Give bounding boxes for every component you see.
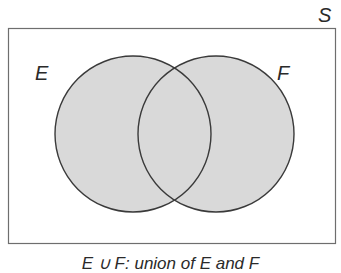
- set-f-fill: [138, 56, 294, 212]
- diagram-caption: E ∪ F: union of E and F: [0, 253, 341, 273]
- set-e-label: E: [35, 63, 48, 83]
- universe-label: S: [318, 5, 331, 25]
- set-f-label: F: [277, 63, 289, 83]
